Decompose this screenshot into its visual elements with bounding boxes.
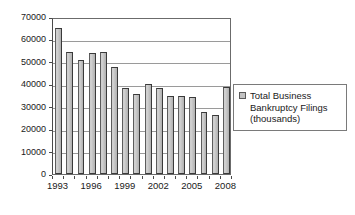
x-axis-tick-mark: [197, 176, 198, 179]
x-axis-tick-mark: [220, 176, 221, 179]
x-axis-tick-mark: [186, 176, 187, 179]
bar: [55, 28, 62, 174]
y-axis-tick-label: 50000: [0, 58, 46, 67]
x-axis-tick-mark: [97, 176, 98, 179]
x-axis-tick-mark: [209, 176, 210, 179]
legend-item: Total Business Bankruptcy Filings (thous…: [239, 90, 342, 125]
bar: [145, 84, 152, 174]
x-axis-tick-mark: [153, 176, 154, 179]
x-axis-tick-label: 2008: [208, 180, 242, 191]
x-axis-tick-label: 2002: [141, 180, 175, 191]
bar: [89, 53, 96, 174]
y-axis-tick-label: 70000: [0, 13, 46, 22]
y-axis-tick-label: 30000: [0, 103, 46, 112]
legend-swatch-icon: [239, 92, 246, 99]
bar: [133, 94, 140, 174]
x-axis-tick-mark: [119, 176, 120, 179]
bar: [167, 96, 174, 175]
x-axis-tick-mark: [175, 176, 176, 179]
y-axis-tick-label: 40000: [0, 80, 46, 89]
x-axis-tick-mark: [74, 176, 75, 179]
x-axis-tick-label: 2005: [175, 180, 209, 191]
y-axis-tick-label: 20000: [0, 125, 46, 134]
bar: [212, 115, 219, 174]
bar: [223, 87, 230, 174]
x-axis-tick-mark: [52, 176, 53, 179]
x-axis-tick-label: 1996: [74, 180, 108, 191]
x-axis-tick-mark: [130, 176, 131, 179]
x-axis-tick-label: 1999: [108, 180, 142, 191]
x-axis: 199319961999200220052008: [0, 180, 355, 200]
bar: [66, 52, 73, 174]
x-axis-tick-mark: [231, 176, 232, 179]
bar: [156, 88, 163, 174]
bar: [78, 60, 85, 174]
bars-group: [53, 19, 230, 174]
y-axis-tick-label: 60000: [0, 35, 46, 44]
bar: [111, 67, 118, 174]
bar-chart-figure: 010000200003000040000500006000070000 199…: [0, 0, 355, 215]
plot-area: [52, 18, 231, 175]
bar: [201, 112, 208, 174]
bar: [122, 88, 129, 174]
bar: [178, 96, 185, 174]
legend-item-label: Total Business Bankruptcy Filings (thous…: [250, 90, 328, 125]
chart-legend: Total Business Bankruptcy Filings (thous…: [233, 84, 347, 131]
bar: [100, 52, 107, 174]
x-axis-tick-mark: [63, 176, 64, 179]
x-axis-tick-mark: [142, 176, 143, 179]
x-axis-tick-mark: [108, 176, 109, 179]
bar: [189, 97, 196, 174]
x-axis-tick-mark: [164, 176, 165, 179]
y-axis-tick-label: 10000: [0, 148, 46, 157]
x-axis-tick-mark: [86, 176, 87, 179]
x-axis-tick-label: 1993: [41, 180, 75, 191]
